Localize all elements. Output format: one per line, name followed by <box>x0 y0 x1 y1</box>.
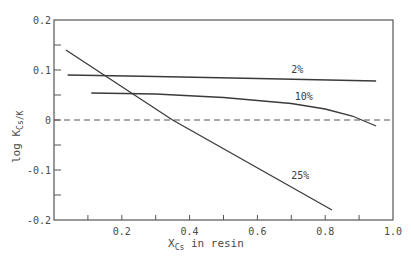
axis-ticks <box>54 45 359 220</box>
x-tick-label: 1.0 <box>384 226 402 237</box>
y-axis-label-sub: Cs/K <box>16 110 25 129</box>
x-axis-label: XCs in resin <box>168 237 244 252</box>
x-tick-label: 0.4 <box>181 226 199 237</box>
y-axis-label-main: log K <box>10 130 23 163</box>
series-line-10pct <box>91 93 376 126</box>
x-tick-label: 0.2 <box>113 226 131 237</box>
y-axis-label: log KCs/K <box>10 110 25 163</box>
data-series <box>66 50 376 210</box>
y-tick-label: -0.2 <box>27 215 51 226</box>
series-labels: 2%10%25% <box>291 64 312 182</box>
y-tick-label: 0.2 <box>33 15 51 26</box>
y-tick-labels: -0.2-0.100.10.2 <box>27 15 51 226</box>
y-tick-label: 0 <box>45 115 51 126</box>
series-label-25pct: 25% <box>291 170 309 181</box>
series-line-2pct <box>68 75 377 81</box>
y-tick-label: 0.1 <box>33 65 51 76</box>
x-tick-labels: 0.20.40.60.81.0 <box>113 226 402 237</box>
series-label-2pct: 2% <box>291 64 303 75</box>
chart: 0.20.40.60.81.0 -0.2-0.100.10.2 2%10%25%… <box>0 0 411 263</box>
x-axis-label-sub: Cs <box>175 243 185 252</box>
x-tick-label: 0.6 <box>248 226 266 237</box>
x-tick-label: 0.8 <box>316 226 334 237</box>
y-tick-label: -0.1 <box>27 165 51 176</box>
x-axis-label-rest: in resin <box>184 237 244 250</box>
series-label-10pct: 10% <box>295 91 313 102</box>
